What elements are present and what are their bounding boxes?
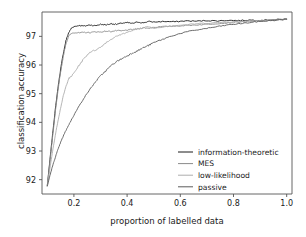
y-tick-label: 93: [26, 147, 36, 156]
x-tick-label: 0.4: [121, 199, 134, 208]
y-axis-label: classification accuracy: [16, 31, 26, 171]
legend-label-3: passive: [198, 183, 227, 192]
series-line-low-likelihood: [47, 19, 286, 186]
legend-label-2: low-likelihood: [198, 171, 250, 180]
x-tick-label: 0.6: [174, 199, 187, 208]
x-tick-label: 0.2: [68, 199, 81, 208]
legend-label-1: MES: [198, 159, 214, 168]
y-tick-label: 94: [26, 118, 36, 127]
series-line-information-theoretic: [47, 19, 286, 185]
series-line-mes: [47, 19, 286, 186]
x-tick-label: 0.8: [227, 199, 240, 208]
y-tick-label: 95: [26, 90, 36, 99]
y-tick-label: 97: [26, 32, 36, 41]
line-chart: 0.20.40.60.81.0929394959697information-t…: [0, 0, 306, 237]
figure: 0.20.40.60.81.0929394959697information-t…: [0, 0, 306, 237]
x-axis-label: proportion of labelled data: [42, 216, 292, 226]
y-tick-label: 96: [26, 61, 36, 70]
legend-label-0: information-theoretic: [198, 148, 279, 157]
y-tick-label: 92: [26, 176, 36, 185]
x-tick-label: 1.0: [280, 199, 293, 208]
series-line-passive: [47, 19, 286, 186]
